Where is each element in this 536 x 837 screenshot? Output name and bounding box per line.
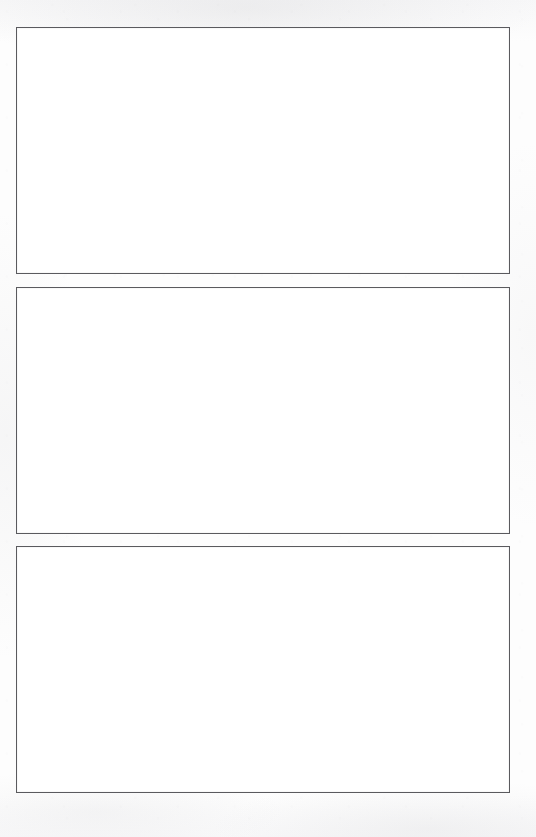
panel-stack <box>16 27 510 793</box>
blank-panel-2 <box>16 287 510 534</box>
scanned-page <box>0 0 536 837</box>
blank-panel-3 <box>16 546 510 793</box>
blank-panel-1 <box>16 27 510 274</box>
blank-panel-3-content <box>17 547 509 792</box>
blank-panel-1-content <box>17 28 509 273</box>
blank-panel-2-content <box>17 288 509 533</box>
